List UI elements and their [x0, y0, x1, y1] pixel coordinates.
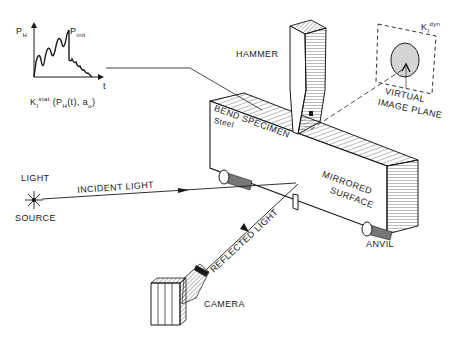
specimen-notch [293, 194, 298, 210]
anvil-label: ANVIL [366, 240, 394, 249]
light-source-label-1: LIGHT [21, 174, 50, 183]
graph-peak-label: Pinit [70, 27, 86, 38]
light-source-label-2: SOURCE [15, 214, 56, 223]
graph-x-label: t [103, 82, 106, 91]
strain-gauge [309, 111, 313, 116]
light-source-icon [25, 191, 43, 209]
x-axis-arrow-icon [98, 74, 104, 80]
hammer-label: HAMMER [236, 50, 278, 59]
caustic-shadow [391, 43, 419, 77]
y-axis-arrow-icon [31, 22, 37, 28]
camera-side [180, 278, 186, 325]
dynamic-k-label: KIdyn [421, 21, 440, 34]
specimen-end-face [387, 160, 418, 234]
hammer [290, 20, 326, 134]
load-time-graph [31, 22, 104, 80]
graph-y-label: PH [16, 27, 27, 38]
static-k-formula: KIstat (PH(t), ao) [30, 96, 95, 109]
camera-label: CAMERA [204, 300, 245, 309]
camera [151, 264, 209, 325]
camera-front [151, 283, 180, 325]
incident-arrow-icon [178, 188, 189, 193]
